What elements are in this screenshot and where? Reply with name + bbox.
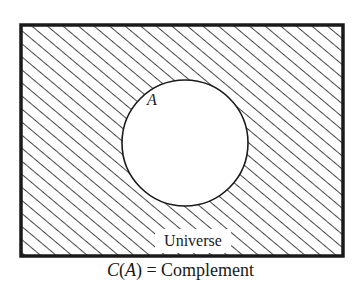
caption-argument: A [125,260,136,280]
caption-function: C [107,260,119,280]
caption-text: Complement [161,260,254,280]
universe-label: Universe [155,229,231,253]
set-a-label: A [147,92,157,108]
caption: C(A) = Complement [0,259,361,281]
caption-equals: = [142,260,161,280]
set-a-circle [122,80,248,206]
